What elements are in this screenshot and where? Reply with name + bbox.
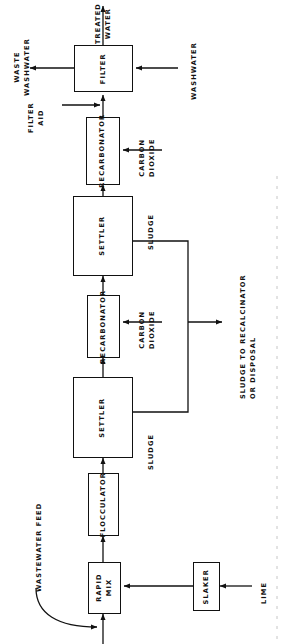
- stream-label-lime: LIME: [260, 582, 270, 604]
- unit-settler-upper-label: SETTLER: [98, 216, 108, 256]
- stream-label-waste-washwater: WASTE WASHWATER: [13, 38, 33, 96]
- unit-recarbonator-upper-label: RECARBONATOR: [98, 114, 108, 188]
- unit-filter-label: FILTER: [99, 53, 109, 84]
- unit-slaker[interactable]: SLAKER: [193, 562, 220, 611]
- stream-label-wastewater-feed: WASTEWATER FEED: [35, 503, 45, 592]
- unit-settler-lower-label: SETTLER: [98, 398, 108, 438]
- unit-settler-upper[interactable]: SETTLER: [73, 196, 133, 276]
- unit-flocculator-label: FLOCCULATOR: [99, 472, 109, 537]
- stream-label-filter-aid: FILTER AID: [27, 102, 47, 133]
- unit-recarbonator-upper[interactable]: RECARBONATOR: [86, 117, 120, 185]
- unit-filter[interactable]: FILTER: [74, 45, 133, 92]
- unit-recarbonator-lower-label: RECARBONATOR: [99, 290, 109, 364]
- stream-label-treated-water: TREATED WATER: [94, 3, 114, 44]
- unit-rapid-mix-label: RAPID MIX: [95, 574, 114, 602]
- unit-settler-lower[interactable]: SETTLER: [73, 377, 133, 458]
- stream-label-washwater: WASHWATER: [190, 42, 200, 100]
- unit-slaker-label: SLAKER: [202, 569, 212, 604]
- stream-label-sludge-disposal: SLUDGE TO RECALCINATOR OR DISPOSAL: [239, 274, 259, 399]
- unit-rapid-mix[interactable]: RAPID MIX: [88, 562, 121, 614]
- process-flow-diagram: FILTER RECARBONATOR SETTLER RECARBONATOR…: [0, 0, 281, 644]
- stream-label-carbon-dioxide-lower: CARBON DIOXIDE: [138, 310, 158, 349]
- unit-recarbonator-lower[interactable]: RECARBONATOR: [87, 295, 120, 358]
- stream-label-sludge-lower: SLUDGE: [147, 434, 157, 470]
- unit-flocculator[interactable]: FLOCCULATOR: [88, 473, 119, 536]
- stream-label-sludge-upper: SLUDGE: [147, 214, 157, 250]
- stream-label-carbon-dioxide-upper: CARBON DIOXIDE: [138, 138, 158, 177]
